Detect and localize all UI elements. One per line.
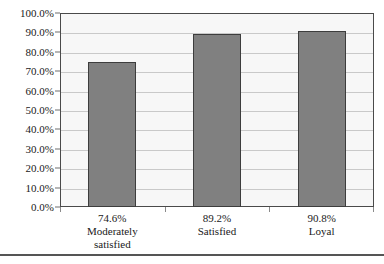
bar-chart-figure: 0.0%10.0%20.0%30.0%40.0%50.0%60.0%70.0%8… [0,0,384,264]
bar-series [60,13,374,207]
bottom-divider [0,254,384,256]
y-axis-tick-label: 80.0% [26,46,54,57]
x-axis-category-label: 89.2%Satisfied [165,212,270,238]
bar-slot [269,13,374,207]
category-value-text: 90.8% [269,212,374,225]
category-value-text: 74.6% [60,212,165,225]
category-name-text: Satisfied [165,225,270,238]
y-axis-tick-label: 20.0% [26,163,54,174]
y-axis-tick-label: 10.0% [26,182,54,193]
y-axis-tick-label: 0.0% [31,202,54,213]
bar [193,34,241,207]
category-name-text: Loyal [269,225,374,238]
y-axis-tick-label: 30.0% [26,143,54,154]
bar [298,31,346,207]
y-axis-tick-label: 70.0% [26,66,54,77]
bar [88,62,136,207]
category-name-text: Moderately [60,225,165,238]
bar-slot [60,13,165,207]
y-axis-tick-label: 40.0% [26,124,54,135]
y-axis-tick-label: 60.0% [26,85,54,96]
x-axis-labels: 74.6%Moderatelysatisfied89.2%Satisfied90… [60,212,374,256]
x-axis-category-label: 74.6%Moderatelysatisfied [60,212,165,251]
bar-slot [165,13,270,207]
x-axis-category-label: 90.8%Loyal [269,212,374,238]
category-value-text: 89.2% [165,212,270,225]
y-axis-tick-label: 90.0% [26,27,54,38]
y-axis-tick-label: 50.0% [26,105,54,116]
y-axis: 0.0%10.0%20.0%30.0%40.0%50.0%60.0%70.0%8… [0,13,60,207]
y-axis-tick-label: 100.0% [20,8,54,19]
category-name-text: satisfied [60,238,165,251]
